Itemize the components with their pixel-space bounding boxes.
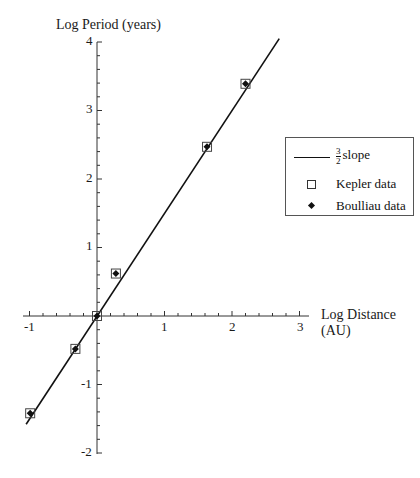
fraction: 32 <box>336 147 341 166</box>
boulliau-marker <box>112 270 119 277</box>
filled-diamond-icon <box>308 202 315 209</box>
y-axis-title: Log Period (years) <box>56 17 161 33</box>
fraction-denominator: 2 <box>336 157 341 166</box>
boulliau-label: Boulliau data <box>336 198 406 214</box>
x-axis-title: Log Distance (AU) <box>321 307 396 339</box>
x-axis-title-line1: Log Distance <box>321 307 396 323</box>
chart-canvas <box>0 0 420 478</box>
slope-text: slope <box>343 147 370 162</box>
y-tick-label: 3 <box>86 101 93 117</box>
x-axis-title-line2: (AU) <box>321 323 396 339</box>
y-tick-label: 4 <box>86 33 93 49</box>
x-tick-label: -1 <box>24 319 35 335</box>
y-axis <box>97 42 102 454</box>
line-swatch-icon <box>294 157 330 158</box>
y-tick-label: 2 <box>86 170 93 186</box>
x-tick-label: 1 <box>161 319 168 335</box>
x-axis <box>23 311 309 316</box>
y-tick-label: -2 <box>81 444 92 460</box>
y-tick-label: -1 <box>81 376 92 392</box>
y-tick-label: 1 <box>86 238 93 254</box>
kepler-label: Kepler data <box>336 176 396 192</box>
slope-line <box>26 39 279 425</box>
data-points <box>26 79 250 417</box>
chart-legend: 32slope Kepler data Boulliau data <box>285 137 414 216</box>
open-square-icon <box>307 180 316 189</box>
slope-label: 32slope <box>336 147 370 166</box>
x-tick-label: 2 <box>229 319 236 335</box>
x-tick-label: 3 <box>297 319 304 335</box>
